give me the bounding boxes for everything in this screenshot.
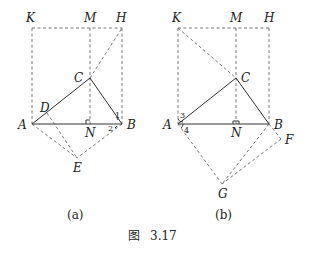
point-label-E: E: [72, 161, 82, 175]
panel-a: K M H C D A N B E 1 2 (a): [17, 11, 136, 222]
point-label-B: B: [273, 118, 283, 132]
point-label-N: N: [230, 126, 242, 140]
panel-b: K M H C A N B F G 3 4 (b): [162, 11, 294, 222]
segment-KC: [178, 28, 236, 78]
angle-label-3: 3: [180, 111, 185, 120]
point-label-G: G: [218, 187, 228, 201]
point-label-N: N: [84, 126, 96, 140]
segment-CH: [90, 28, 122, 78]
point-label-H: H: [115, 11, 127, 25]
segment-DE: [47, 113, 77, 158]
point-label-M: M: [229, 11, 243, 25]
right-angle-N: [86, 120, 90, 124]
point-label-C: C: [241, 71, 250, 85]
point-label-F: F: [284, 133, 294, 147]
angle-label-4: 4: [184, 126, 189, 135]
panel-a-sublabel: (a): [67, 208, 84, 222]
angle-4-arc: [181, 124, 183, 128]
figure-caption-number: 3.17: [150, 229, 177, 243]
point-label-K: K: [171, 11, 182, 25]
point-label-H: H: [263, 11, 275, 25]
point-label-B: B: [126, 118, 136, 132]
point-label-K: K: [25, 11, 36, 25]
segment-AC: [178, 78, 236, 124]
figure-3-17: K M H C D A N B E 1 2 (a) K M H C A N B: [0, 0, 310, 255]
angle-label-2: 2: [108, 124, 113, 133]
point-label-C: C: [74, 71, 83, 85]
angle-label-1: 1: [115, 111, 120, 120]
point-label-A: A: [17, 118, 27, 132]
segment-AE: [32, 124, 77, 158]
point-label-D: D: [39, 101, 50, 115]
segment-BE: [77, 124, 122, 158]
point-label-M: M: [83, 11, 97, 25]
panel-b-sublabel: (b): [215, 208, 232, 222]
figure-caption-prefix: 图: [128, 229, 140, 243]
point-label-A: A: [162, 118, 172, 132]
